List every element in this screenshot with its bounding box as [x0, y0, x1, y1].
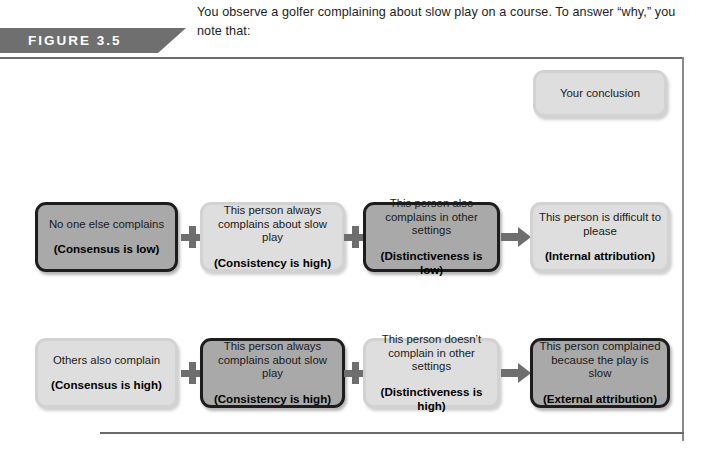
node-distinctiveness-high: This person doesn’t complain in other se…	[363, 338, 500, 408]
node-text-secondary: (Consensus is high)	[51, 378, 162, 392]
node-text-primary: This person also complains in other sett…	[372, 197, 491, 238]
node-text-primary: This person always complains about slow …	[209, 204, 336, 245]
node-text-secondary: (Consistency is high)	[214, 392, 331, 406]
node-text-primary: This person doesn’t complain in other se…	[372, 333, 491, 374]
your-conclusion-label: Your conclusion	[560, 87, 640, 101]
node-text-secondary: (Distinctiveness is low)	[372, 249, 491, 277]
node-text-secondary: (Consensus is low)	[54, 242, 160, 256]
your-conclusion-box: Your conclusion	[533, 70, 667, 117]
arrow-shaft	[501, 233, 519, 241]
node-text-primary: Others also complain	[53, 354, 160, 368]
arrow-shaft	[501, 369, 519, 377]
node-distinctiveness-low: This person also complains in other sett…	[363, 202, 500, 272]
node-text-secondary: (Consistency is high)	[214, 256, 331, 270]
node-consistency-high-row1: This person always complains about slow …	[200, 202, 345, 272]
node-text-secondary: (External attribution)	[543, 392, 657, 406]
node-internal-attribution: This person is difficult to please (Inte…	[530, 202, 670, 272]
figure-banner-notch	[158, 28, 186, 53]
node-text-primary: No one else complains	[49, 218, 164, 232]
node-consistency-high-row2: This person always complains about slow …	[200, 338, 345, 408]
node-consensus-high: Others also complain (Consensus is high)	[35, 338, 178, 408]
node-text-primary: This person always complains about slow …	[209, 340, 336, 381]
node-text-secondary: (Internal attribution)	[545, 249, 655, 263]
frame-bottom-rule	[100, 432, 684, 434]
node-text-primary: This person complained because the play …	[539, 340, 661, 381]
frame-top-rule	[0, 57, 684, 59]
figure-caption: You observe a golfer complaining about s…	[197, 3, 677, 41]
frame-right-rule	[682, 57, 684, 441]
node-consensus-low: No one else complains (Consensus is low)	[35, 202, 178, 272]
node-external-attribution: This person complained because the play …	[530, 338, 670, 408]
node-text-secondary: (Distinctiveness is high)	[372, 385, 491, 413]
figure-number-label: FIGURE 3.5	[28, 33, 122, 48]
figure-number-banner: FIGURE 3.5	[0, 28, 158, 53]
arrow-right-icon	[501, 363, 531, 383]
node-text-primary: This person is difficult to please	[539, 211, 661, 238]
arrow-right-icon	[501, 227, 531, 247]
